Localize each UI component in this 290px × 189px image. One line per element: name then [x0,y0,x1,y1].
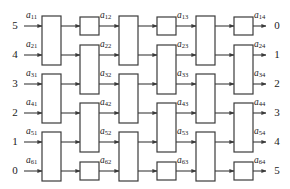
input-port-label-row-2: 4 [8,49,22,60]
edge-label-a22: a22 [100,40,111,50]
output-port-label-row-6: 5 [270,165,284,176]
output-port-label-row-1: 0 [270,20,284,31]
edge-label-a42: a42 [100,98,111,108]
output-port-label-row-2: 1 [270,49,284,60]
input-port-label-row-5: 1 [8,136,22,147]
switch-box-layer [42,16,253,181]
switch-box-col4-rows1[interactable] [157,17,176,35]
edge-label-a61: a61 [26,156,37,166]
switch-box-col1-rows1-2[interactable] [42,16,61,65]
switch-box-col2-rows1[interactable] [80,17,99,35]
edge-label-a11: a11 [26,11,37,21]
edge-label-a41: a41 [26,98,37,108]
switch-box-col2-rows2-3[interactable] [80,45,99,94]
switch-box-col2-rows4-5[interactable] [80,103,99,152]
switch-box-col1-rows5-6[interactable] [42,132,61,181]
edge-label-a64: a64 [254,156,265,166]
edge-label-a62: a62 [100,156,111,166]
switch-box-col6-rows6[interactable] [234,162,253,180]
edge-label-a43: a43 [177,98,188,108]
edge-label-a63: a63 [177,156,188,166]
input-port-label-row-6: 0 [8,165,22,176]
edge-label-a54: a54 [254,127,265,137]
switch-box-col1-rows3-4[interactable] [42,74,61,123]
edge-label-a53: a53 [177,127,188,137]
switch-box-col6-rows1[interactable] [234,17,253,35]
edge-label-a44: a44 [254,98,265,108]
switch-box-col3-rows1-2[interactable] [119,16,138,65]
edge-label-a31: a31 [26,69,37,79]
edge-label-a51: a51 [26,127,37,137]
edge-label-a34: a34 [254,69,265,79]
switch-box-col5-rows5-6[interactable] [196,132,215,181]
switch-box-col6-rows4-5[interactable] [234,103,253,152]
edge-label-a13: a13 [177,11,188,21]
edge-label-a33: a33 [177,69,188,79]
input-port-label-row-3: 3 [8,78,22,89]
input-port-label-row-1: 5 [8,20,22,31]
switch-box-col5-rows3-4[interactable] [196,74,215,123]
edge-label-a24: a24 [254,40,265,50]
switch-box-col4-rows2-3[interactable] [157,45,176,94]
output-port-label-row-3: 2 [270,78,284,89]
edge-label-a32: a32 [100,69,111,79]
network-graphics [0,0,290,189]
switch-box-col3-rows5-6[interactable] [119,132,138,181]
switch-box-col5-rows1-2[interactable] [196,16,215,65]
switch-box-col4-rows6[interactable] [157,162,176,180]
edge-label-a52: a52 [100,127,111,137]
edge-label-a14: a14 [254,11,265,21]
switch-box-col4-rows4-5[interactable] [157,103,176,152]
switch-box-col6-rows2-3[interactable] [234,45,253,94]
switch-box-col2-rows6[interactable] [80,162,99,180]
switching-network-diagram: 543210012345 a11a21a31a41a51a61a12a22a32… [0,0,290,189]
output-port-label-row-5: 4 [270,136,284,147]
switch-box-col3-rows3-4[interactable] [119,74,138,123]
output-port-label-row-4: 3 [270,107,284,118]
edge-label-a23: a23 [177,40,188,50]
edge-label-a21: a21 [26,40,37,50]
edge-label-a12: a12 [100,11,111,21]
input-port-label-row-4: 2 [8,107,22,118]
